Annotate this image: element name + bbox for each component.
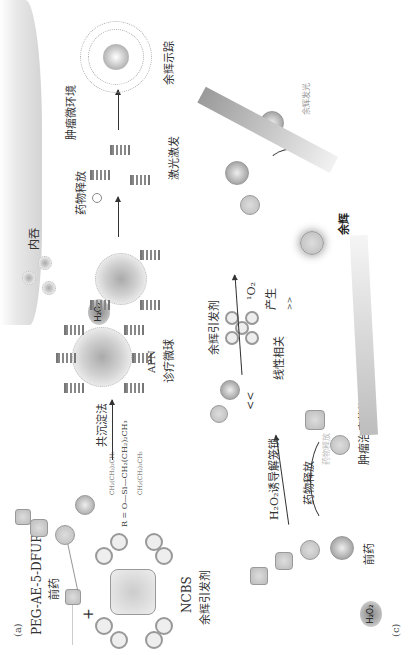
released-drug-icon (92, 193, 102, 203)
lt-sign: << (244, 392, 257, 410)
tumor-microenvironment-label: 肿瘤微环境 (62, 85, 78, 140)
apn-name: APN (146, 350, 157, 373)
prodrug-label: 前药 (45, 578, 61, 600)
apn-label: 诊疗微球 (160, 339, 176, 383)
panel-a-tag: (a) (12, 623, 23, 637)
r-group-formula: R = O—Si—CH₂(CH₂)₂CH₃ (120, 420, 129, 527)
afterglow-imaging-label: 余辉示踪 (160, 41, 176, 85)
afterglow-emission-label: 余辉发光 (300, 83, 311, 115)
singlet-oxygen-produce-label: 产生 (262, 288, 278, 310)
drug-release-label-b: 药物释放 (72, 171, 88, 215)
coprecipitation-arrow (112, 400, 113, 460)
r-group-bottom: CH₂(CH₂)₂CH₃ (136, 451, 143, 495)
h2o2-bubble-c: H₂O₂ (360, 601, 382, 627)
laser-label: 激光激发 (165, 136, 181, 180)
prodrug-name: PEG-AE-5-DFUR (30, 534, 44, 635)
singlet-oxygen-label: ¹O₂ (245, 282, 258, 300)
ncbs-label: 余辉引发剂 (196, 570, 212, 625)
figure-stage: (a) PEG-AE-5-DFUR 前药 + R = O—Si—CH₂(CH₂)… (0, 0, 408, 655)
ncbs-name: NCBS (180, 576, 194, 613)
gt-sign: >> (285, 297, 294, 310)
drug-release-gradient-arrow (350, 235, 378, 436)
endocytosis-label: 内吞 (25, 228, 41, 250)
linear-relation-label: 线性相关 (270, 336, 286, 380)
drug-release-faint-label: 药物释放 (320, 433, 331, 465)
panel-c-tag: (c) (390, 624, 401, 637)
arrow-b2 (118, 90, 119, 130)
arrow-b1 (118, 197, 119, 237)
plus-sign: + (80, 608, 96, 620)
afterglow-initiator-label: 余辉引发剂 (205, 300, 221, 355)
coprecipitation-label: 共沉淀法 (93, 403, 109, 447)
afterglow-label: 余辉 (335, 213, 351, 235)
prodrug-c-label: 前药 (360, 543, 376, 565)
